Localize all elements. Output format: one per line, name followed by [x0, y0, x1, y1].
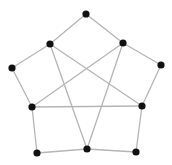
graph-edge-upper-left--mid-right [50, 44, 142, 106]
graph-nodes-layer [8, 10, 164, 156]
graph-edge-mid-left--bottom-left [32, 107, 37, 153]
graph-edge-bottom-right--mid-right [136, 106, 142, 152]
graph-edge-upper-right--mid-left [32, 43, 123, 107]
graph-edge-bottom-left--bottom-center [37, 149, 87, 153]
graph-edge-upper-right--bottom-center [87, 43, 123, 149]
graph-edge-upper-right--top [86, 14, 123, 43]
graph-node-far-left [8, 64, 15, 71]
graph-edge-upper-left--far-left [12, 44, 50, 68]
graph-node-upper-left [46, 40, 53, 47]
graph-edge-mid-right--far-right [142, 65, 161, 106]
graph-edge-far-left--mid-left [12, 68, 32, 107]
graph-node-bottom-right [132, 148, 139, 155]
graph-edge-mid-left--mid-right [32, 106, 142, 107]
graph-node-bottom-center [83, 145, 90, 152]
graph-edge-upper-left--bottom-center [50, 44, 87, 149]
graph-node-bottom-left [33, 149, 40, 156]
graph-node-top [82, 10, 89, 17]
graph-node-upper-right [119, 39, 126, 46]
graph-node-far-right [157, 61, 164, 68]
graph-edge-top--upper-left [50, 14, 86, 44]
graph-edge-bottom-center--bottom-right [87, 149, 136, 152]
graph-edge-far-right--upper-right [123, 43, 161, 65]
graph-diagram [0, 0, 172, 165]
graph-node-mid-left [28, 103, 35, 110]
graph-canvas [0, 0, 172, 165]
graph-node-mid-right [138, 102, 145, 109]
graph-edges-layer [12, 14, 161, 153]
